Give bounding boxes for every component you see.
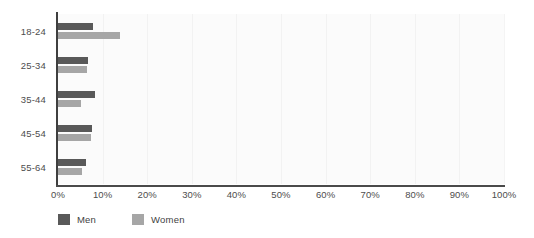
x-axis-tick-label: 70% — [361, 189, 380, 200]
y-axis-tick-label: 35-44 — [0, 82, 52, 116]
bar-men — [58, 91, 95, 98]
bar-men — [58, 125, 92, 132]
x-axis-tick-label: 10% — [93, 189, 112, 200]
bar-women — [58, 100, 81, 107]
legend-item-women[interactable]: Women — [132, 214, 185, 225]
legend-label: Women — [151, 214, 185, 225]
y-axis-line — [56, 12, 58, 186]
x-axis-tick-label: 30% — [182, 189, 201, 200]
bar-group — [58, 48, 504, 82]
bar-group — [58, 116, 504, 150]
x-axis-tick-label: 90% — [450, 189, 469, 200]
bar-men — [58, 57, 88, 64]
x-axis-tick-label: 100% — [492, 189, 517, 200]
bar-women — [58, 134, 91, 141]
x-axis-tick-label: 20% — [138, 189, 157, 200]
bar-women — [58, 32, 120, 39]
bar-group — [58, 82, 504, 116]
horizontal-bar-chart: 18-24 25-34 35-44 45-54 55-64 — [0, 0, 534, 238]
bar-men — [58, 23, 93, 30]
bar-women — [58, 168, 82, 175]
plot-area — [58, 14, 504, 184]
legend-swatch-icon — [132, 214, 144, 225]
legend-item-men[interactable]: Men — [58, 214, 96, 225]
y-axis-tick-label: 25-34 — [0, 48, 52, 82]
bar-men — [58, 159, 86, 166]
x-axis-tick-label: 40% — [227, 189, 246, 200]
y-axis-tick-label: 18-24 — [0, 14, 52, 48]
x-axis-tick-label: 0% — [51, 189, 65, 200]
x-axis-tick-label: 60% — [316, 189, 335, 200]
bar-women — [58, 66, 87, 73]
bar-group — [58, 150, 504, 184]
x-axis-tick-labels: 0%10%20%30%40%50%60%70%80%90%100% — [58, 189, 504, 205]
x-axis-tick-label: 80% — [405, 189, 424, 200]
chart-legend: Men Women — [58, 214, 185, 225]
bar-groups — [58, 14, 504, 184]
gridline — [504, 14, 505, 184]
y-axis-tick-label: 55-64 — [0, 150, 52, 184]
x-axis-line — [56, 185, 505, 187]
bar-group — [58, 14, 504, 48]
x-axis-tick-label: 50% — [271, 189, 290, 200]
legend-label: Men — [77, 214, 96, 225]
y-axis-tick-label: 45-54 — [0, 116, 52, 150]
y-axis-category-labels: 18-24 25-34 35-44 45-54 55-64 — [0, 14, 52, 184]
legend-swatch-icon — [58, 214, 70, 225]
